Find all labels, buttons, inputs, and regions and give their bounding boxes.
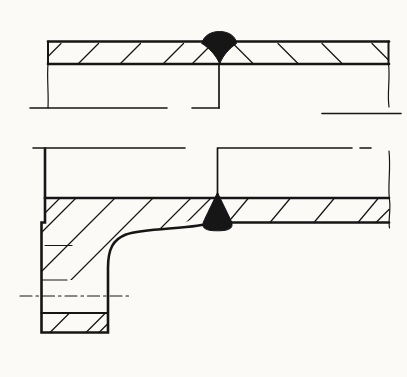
flange-hub-hatching-path xyxy=(45,198,60,213)
top-pipe-right-break-edge xyxy=(388,64,389,107)
flange-hub-hatching xyxy=(42,198,212,283)
bottom-pipe-hatching-right-part-path xyxy=(228,198,249,223)
top-pipe-hatching-right-part-path xyxy=(372,44,389,61)
top-pipe-hatching-left-part-path xyxy=(78,44,99,65)
bottom-pipe-hatching-right-part xyxy=(228,198,389,223)
flange-hub-hatching-path xyxy=(106,198,191,283)
top-pipe-hatching-right-part xyxy=(233,44,389,65)
top-pipe-bore-lines xyxy=(30,108,401,114)
flange-foot-hatching xyxy=(50,313,108,333)
bottom-pipe-right-break-edge xyxy=(389,151,390,228)
bottom-pipe-hatching-right-part-path xyxy=(270,198,291,223)
top-pipe-right-break-edge-path xyxy=(388,64,389,107)
top-pipe-hatching-left-part-path xyxy=(48,44,61,57)
top-weld-bead-path xyxy=(202,32,237,65)
weld-joint-cross-section-drawing xyxy=(0,0,407,377)
top-pipe-hatching-right-part-path xyxy=(322,44,343,65)
flange-hub-hatching-path xyxy=(126,198,211,283)
top-pipe-hatching-left-part-path xyxy=(120,44,141,65)
flange-foot-hatching-path xyxy=(99,324,108,333)
top-pipe-hatching-left-part xyxy=(48,44,212,65)
top-pipe-hatching-left-part-path xyxy=(163,44,184,65)
technical-drawing-canvas xyxy=(0,0,407,377)
top-pipe-hatching-right-part-path xyxy=(233,44,254,65)
bottom-pipe-hatching-right-part-path xyxy=(376,210,389,223)
top-weld-bead xyxy=(202,32,237,65)
bottom-pipe-hatching-right-part-path xyxy=(314,198,335,223)
flange-foot-hatching-path xyxy=(50,313,70,333)
flange-hub-hatching-path xyxy=(68,198,153,283)
top-pipe-left-break-edge xyxy=(48,64,49,108)
flange-hub-hatching-path xyxy=(42,198,77,233)
bottom-pipe-right-break-edge-path xyxy=(389,151,390,200)
top-pipe-left-break-edge-path xyxy=(48,64,49,108)
flange-hub-hatching-path xyxy=(42,198,116,272)
top-pipe-hatching-right-part-path xyxy=(278,44,299,65)
bottom-pipe-right-break-edge-path xyxy=(389,200,390,228)
bottom-pipe-hatching-right-part-path xyxy=(358,198,379,223)
